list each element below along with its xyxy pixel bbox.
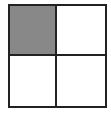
- grid-cell-bottom-left: [10, 56, 57, 106]
- two-by-two-grid: [8, 4, 107, 108]
- grid-cell-bottom-right: [57, 56, 105, 106]
- grid-cell-top-right: [57, 6, 105, 56]
- grid-cell-top-left-shaded: [10, 6, 57, 56]
